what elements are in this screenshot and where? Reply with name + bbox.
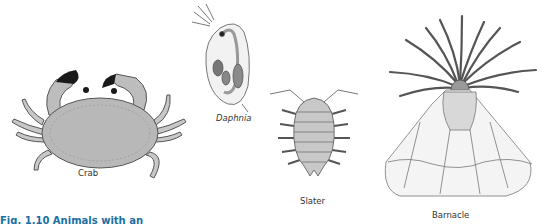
barnacle-label: Barnacle [432,210,469,220]
daphnia-icon [192,4,272,114]
barnacle-illustration [380,12,542,200]
slater-icon [266,84,366,184]
crab-illustration [4,60,204,170]
slater-illustration [266,84,366,184]
daphnia-label: Daphnia [216,113,252,123]
slater-label: Slater [300,196,325,206]
crab-label: Crab [78,168,98,178]
daphnia-illustration [192,4,272,114]
barnacle-icon [380,12,542,200]
crab-icon [4,60,204,170]
figure-caption: Fig. 1.10 Animals with an [0,215,143,224]
